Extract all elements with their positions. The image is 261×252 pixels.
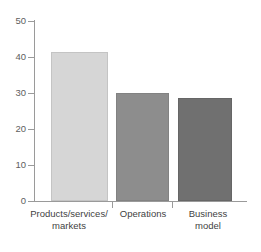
y-tick-label-40: 40 [2, 52, 26, 62]
bar-chart: 50 40 30 20 10 0 Products/services/ mark… [0, 0, 261, 252]
category-label-line2: model [175, 220, 241, 232]
y-tick-label-30-wrap: 30 [0, 88, 26, 98]
y-tick-label-50: 50 [2, 16, 26, 26]
category-label-line1: Business [189, 208, 228, 219]
category-label-line1: Products/services/ [30, 208, 108, 219]
y-tick-label-0: 0 [2, 196, 26, 206]
x-separator-tick-2 [172, 202, 173, 208]
y-tick-label-20: 20 [2, 124, 26, 134]
y-tick-label-50-wrap: 50 [0, 16, 26, 26]
category-label-products-services-markets: Products/services/ markets [25, 208, 113, 232]
y-tick-label-20-wrap: 20 [0, 124, 26, 134]
bar-business-model[interactable] [178, 98, 232, 201]
category-label-line1: Operations [120, 208, 166, 219]
category-label-business-model: Business model [175, 208, 241, 232]
y-tick-label-10-wrap: 10 [0, 160, 26, 170]
bar-products-services-markets[interactable] [51, 52, 108, 201]
category-label-operations: Operations [114, 208, 172, 220]
y-tick-label-30: 30 [2, 88, 26, 98]
y-tick-label-10: 10 [2, 160, 26, 170]
category-label-line2: markets [25, 220, 113, 232]
y-tick-label-40-wrap: 40 [0, 52, 26, 62]
y-tick-label-0-wrap: 0 [0, 196, 26, 206]
plot-area [34, 21, 237, 201]
x-axis-line [34, 201, 247, 202]
bar-operations[interactable] [116, 93, 169, 201]
